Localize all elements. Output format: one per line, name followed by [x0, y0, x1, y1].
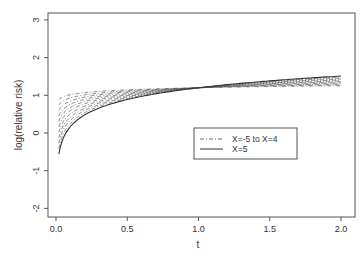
y-axis: -2-10123	[31, 17, 48, 212]
chart: 0.00.51.01.52.0 -2-10123 t log(relative …	[0, 0, 364, 259]
plot-frame	[48, 13, 355, 217]
y-tick-label: 2	[31, 55, 41, 60]
y-tick-label: -2	[31, 204, 41, 212]
x-tick-label: 0.0	[50, 224, 63, 234]
y-tick-label: 1	[31, 93, 41, 98]
x-tick-label: 1.0	[192, 224, 205, 234]
x-axis: 0.00.51.01.52.0	[50, 217, 348, 234]
legend-label-solid: X=5	[232, 144, 248, 154]
y-axis-label: log(relative risk)	[13, 80, 24, 151]
x-tick-label: 1.5	[263, 224, 276, 234]
y-tick-label: -1	[31, 167, 41, 175]
x-axis-label: t	[197, 239, 200, 250]
legend-label-dashed: X=-5 to X=4	[232, 134, 278, 144]
x-tick-label: 2.0	[335, 224, 348, 234]
y-tick-label: 3	[31, 17, 41, 22]
legend: X=-5 to X=4 X=5	[194, 128, 297, 159]
y-tick-label: 0	[31, 130, 41, 135]
x-tick-label: 0.5	[121, 224, 134, 234]
